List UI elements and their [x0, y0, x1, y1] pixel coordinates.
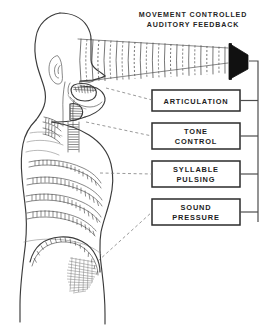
diagram-canvas: MOVEMENT CONTROLLED AUDITORY FEEDBACK [0, 0, 268, 325]
wave-arc [134, 42, 135, 79]
box-syllable-pulsing-label-line2: PULSING [177, 175, 216, 184]
ear [49, 56, 62, 84]
larynx [43, 82, 83, 152]
bus-vertical [249, 61, 258, 222]
rib-band-4-bottom [27, 217, 95, 236]
box-tone-control-label-line2: CONTROL [175, 137, 218, 146]
leader-syllable-pulsing [100, 173, 152, 174]
figure-title: MOVEMENT CONTROLLED AUDITORY FEEDBACK [139, 11, 247, 29]
ribcage-intercostals [26, 160, 102, 236]
box-tone-control-label-line1: TONE [184, 127, 208, 136]
signal-bus-line [240, 61, 258, 222]
diaphragm [30, 237, 100, 293]
sound-cone-bottom-edge [80, 63, 228, 82]
leader-articulation [106, 88, 152, 100]
box-syllable-pulsing-label-line1: SYLLABLE [173, 165, 219, 174]
torso-front-outline [52, 122, 113, 324]
box-sound-pressure[interactable]: SOUND PRESSURE [152, 199, 240, 225]
mandible-inner [68, 95, 86, 109]
wave-arc [110, 41, 111, 80]
leader-sound-pressure [98, 212, 152, 261]
abdominal-fan-hatching [67, 257, 96, 293]
head-crown-outline [60, 13, 91, 39]
wave-arc [80, 39, 81, 82]
wave-arc [140, 42, 141, 78]
head-back-outline [35, 13, 60, 120]
box-sound-pressure-label-line2: PRESSURE [172, 213, 219, 222]
wave-arc [86, 39, 87, 81]
wave-arc [164, 44, 165, 77]
figure-container: MOVEMENT CONTROLLED AUDITORY FEEDBACK [0, 0, 268, 325]
wave-arc [92, 40, 93, 82]
wave-arc [146, 43, 147, 78]
sound-wave-lines [78, 39, 228, 82]
wave-arc [98, 40, 99, 81]
neck-muscle-bands [43, 117, 62, 143]
rib-band-1-top [29, 160, 101, 183]
pharynx-posterior-wall [63, 82, 65, 126]
box-syllable-pulsing[interactable]: SYLLABLE PULSING [152, 161, 240, 187]
box-articulation-label: ARTICULATION [163, 97, 228, 106]
speaker-horn-face [229, 44, 232, 80]
wave-arc [116, 41, 117, 80]
mandible-arch [70, 97, 102, 107]
figure-title-line1: MOVEMENT CONTROLLED [139, 11, 247, 19]
figure-title-line2: AUDITORY FEEDBACK [147, 21, 239, 29]
soft-palate [68, 83, 70, 94]
wave-arc [122, 41, 123, 79]
upper-chest-contour [26, 150, 59, 155]
rib-band-2-top [27, 177, 102, 200]
speaker-horn-icon [229, 44, 248, 80]
box-sound-pressure-label-line1: SOUND [181, 203, 212, 212]
leader-tone-control [86, 122, 152, 136]
wave-arc [158, 43, 159, 77]
wave-arc [171, 44, 172, 77]
wave-arc [128, 42, 129, 79]
box-articulation[interactable]: ARTICULATION [152, 90, 240, 111]
ear-inner-curve-2 [58, 66, 60, 74]
box-tone-control[interactable]: TONE CONTROL [152, 123, 240, 149]
torso-outline [20, 120, 113, 324]
wave-arc [152, 43, 153, 78]
ear-outer [49, 56, 62, 84]
leader-lines [86, 88, 152, 261]
speaker-horn-body [230, 44, 248, 79]
